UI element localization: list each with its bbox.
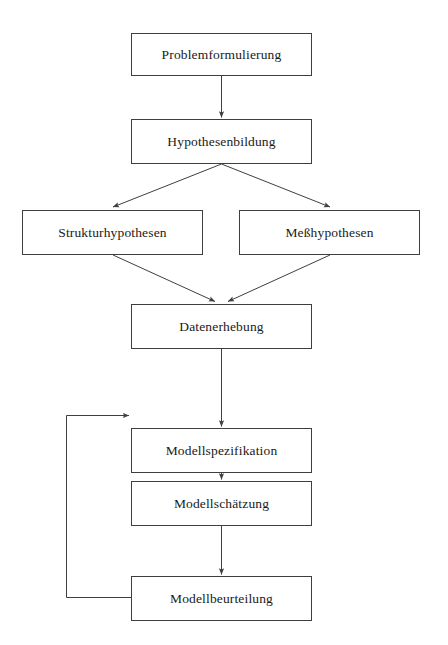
node-problemformulierung[interactable]: Problemformulierung [131, 33, 312, 76]
node-label: Datenerhebung [179, 320, 263, 334]
connector-beurteilung-feedback-loop [67, 416, 132, 598]
node-label: Hypothesenbildung [167, 135, 275, 149]
flowchart-canvas: Problemformulierung Hypothesenbildung St… [0, 0, 448, 645]
node-label: Problemformulierung [162, 48, 282, 62]
node-datenerhebung[interactable]: Datenerhebung [131, 304, 312, 349]
node-modellschaetzung[interactable]: Modellschätzung [131, 481, 312, 526]
connector-hypothesen-to-struktur [113, 164, 222, 207]
node-hypothesenbildung[interactable]: Hypothesenbildung [131, 119, 312, 164]
node-modellbeurteilung[interactable]: Modellbeurteilung [131, 576, 312, 621]
node-modellspezifikation[interactable]: Modellspezifikation [131, 428, 312, 473]
connector-hypothesen-to-mess [222, 164, 331, 207]
node-messhypothesen[interactable]: Meßhypothesen [239, 210, 420, 255]
node-label: Modellschätzung [174, 497, 269, 511]
connector-mess-to-daten [228, 255, 330, 302]
node-label: Meßhypothesen [285, 226, 373, 240]
node-label: Modellbeurteilung [170, 592, 273, 606]
node-label: Modellspezifikation [166, 444, 278, 458]
node-label: Strukturhypothesen [58, 226, 166, 240]
node-strukturhypothesen[interactable]: Strukturhypothesen [22, 210, 203, 255]
connector-struktur-to-daten [113, 255, 215, 302]
